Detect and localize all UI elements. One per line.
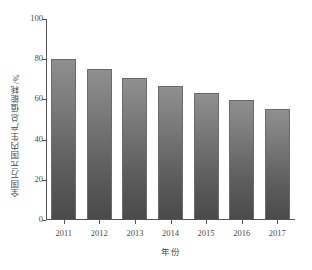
y-axis-line	[46, 19, 47, 220]
bar	[194, 93, 219, 219]
plot-area: 020406080100 201120122013201420152016201…	[46, 19, 295, 220]
x-axis-tick-mark	[64, 220, 65, 224]
x-axis-tick-label: 2012	[91, 228, 108, 239]
y-axis-tick-label: 80	[35, 53, 44, 64]
x-axis-tick-label: 2016	[233, 228, 250, 239]
bar	[158, 86, 183, 219]
bar-chart-figure: 全国万元国内生产总值能耗/% 020406080100 201120122013…	[0, 0, 312, 270]
y-axis-tick-label: 20	[35, 174, 44, 185]
x-axis-tick-mark	[171, 220, 172, 224]
x-axis-tick-label: 2013	[126, 228, 143, 239]
y-axis-title: 全国万元国内生产总值能耗/%	[9, 55, 23, 215]
bar	[122, 78, 147, 219]
bar	[229, 100, 254, 219]
x-axis-tick-mark	[206, 220, 207, 224]
x-axis-tick-label: 2015	[198, 228, 215, 239]
bar	[87, 69, 112, 219]
x-axis-tick-mark	[277, 220, 278, 224]
y-axis-tick-label: 60	[35, 93, 44, 104]
bar	[265, 109, 290, 219]
y-axis-tick-label: 0	[39, 214, 43, 225]
x-axis-tick-label: 2017	[269, 228, 286, 239]
x-axis-tick-mark	[99, 220, 100, 224]
y-axis-tick-label: 100	[30, 13, 43, 24]
x-axis-tick-mark	[242, 220, 243, 224]
x-axis-title: 年份	[46, 247, 295, 258]
x-axis-tick-label: 2011	[55, 228, 72, 239]
bar	[51, 59, 76, 219]
x-axis-tick-label: 2014	[162, 228, 179, 239]
y-axis-tick-label: 40	[35, 134, 44, 145]
x-axis-tick-mark	[135, 220, 136, 224]
